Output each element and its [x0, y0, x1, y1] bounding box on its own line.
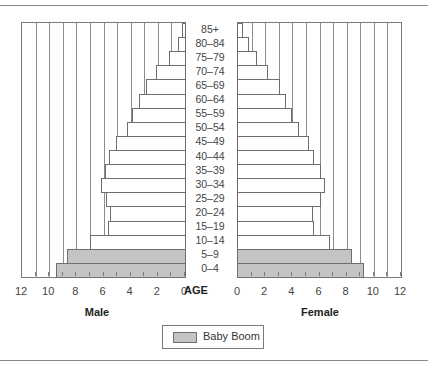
- tick: [170, 272, 171, 276]
- age-label: 75–79: [185, 51, 235, 63]
- female-bar-15–19: [237, 221, 314, 236]
- male-bar-25–29: [106, 192, 186, 207]
- gridline: [360, 23, 361, 277]
- tick: [62, 272, 63, 276]
- tick: [130, 272, 131, 276]
- male-tick-label: 8: [65, 285, 85, 297]
- male-bar-60–64: [139, 94, 186, 109]
- female-tick-label: 0: [227, 285, 247, 297]
- age-label: 45–49: [185, 135, 235, 147]
- gridline: [49, 23, 50, 277]
- age-label: 25–29: [185, 192, 235, 204]
- tick: [373, 272, 374, 276]
- male-bar-35–39: [105, 164, 186, 179]
- female-bar-70–74: [237, 65, 268, 80]
- female-bar-55–59: [237, 108, 292, 123]
- male-bar-5–9: [67, 249, 186, 264]
- gridline: [63, 23, 64, 277]
- legend: Baby Boom: [162, 325, 264, 349]
- male-bar-30–34: [101, 178, 186, 193]
- age-axis-title: AGE: [176, 284, 216, 296]
- female-bar-45–49: [237, 136, 309, 151]
- male-bar-15–19: [108, 221, 186, 236]
- tick: [332, 272, 333, 276]
- age-label: 55–59: [185, 107, 235, 119]
- tick: [103, 272, 104, 276]
- tick: [21, 272, 22, 276]
- female-bar-60–64: [237, 94, 286, 109]
- tick: [346, 272, 347, 276]
- female-tick-label: 4: [281, 285, 301, 297]
- tick: [157, 272, 158, 276]
- age-label: 60–64: [185, 93, 235, 105]
- bottom-rule: [0, 360, 428, 361]
- male-bar-20–24: [110, 206, 186, 221]
- female-bar-30–34: [237, 178, 325, 193]
- female-plot-area: [237, 22, 402, 278]
- female-tick-label: 8: [336, 285, 356, 297]
- tick: [116, 272, 117, 276]
- male-bar-50–54: [127, 122, 186, 137]
- top-rule: [0, 5, 428, 6]
- male-tick-label: 4: [120, 285, 140, 297]
- female-bar-75–79: [237, 51, 257, 66]
- female-bar-40–44: [237, 150, 314, 165]
- male-bar-70–74: [156, 65, 186, 80]
- gridline: [347, 23, 348, 277]
- tick: [305, 272, 306, 276]
- male-bar-40–44: [109, 150, 186, 165]
- legend-label: Baby Boom: [203, 330, 260, 342]
- age-label: 85+: [185, 23, 235, 35]
- male-tick-label: 12: [11, 285, 31, 297]
- age-label: 5–9: [185, 248, 235, 260]
- age-label: 70–74: [185, 65, 235, 77]
- tick: [386, 272, 387, 276]
- tick: [48, 272, 49, 276]
- tick: [143, 272, 144, 276]
- female-axis-title: Female: [280, 306, 360, 318]
- female-bar-25–29: [237, 192, 321, 207]
- tick: [291, 272, 292, 276]
- female-bar-35–39: [237, 164, 321, 179]
- male-bar-10–14: [90, 235, 186, 250]
- male-bar-55–59: [132, 108, 186, 123]
- male-bar-45–49: [116, 136, 186, 151]
- tick: [35, 272, 36, 276]
- tick: [251, 272, 252, 276]
- age-label: 15–19: [185, 220, 235, 232]
- tick: [278, 272, 279, 276]
- female-bar-10–14: [237, 235, 330, 250]
- gridline: [387, 23, 388, 277]
- tick: [264, 272, 265, 276]
- male-bar-75–79: [169, 51, 186, 66]
- male-axis-title: Male: [57, 306, 137, 318]
- male-tick-label: 2: [147, 285, 167, 297]
- male-plot-area: [21, 22, 186, 278]
- tick: [89, 272, 90, 276]
- male-tick-label: 10: [38, 285, 58, 297]
- legend-swatch-baby-boom: [173, 332, 197, 343]
- age-label: 50–54: [185, 121, 235, 133]
- female-bar-5–9: [237, 249, 352, 264]
- age-label: 40–44: [185, 150, 235, 162]
- tick: [237, 272, 238, 276]
- gridline: [36, 23, 37, 277]
- age-label: 20–24: [185, 206, 235, 218]
- female-bar-85+: [237, 23, 243, 38]
- age-label: 10–14: [185, 234, 235, 246]
- age-label: 65–69: [185, 79, 235, 91]
- age-label: 0–4: [185, 262, 235, 274]
- female-bar-80–84: [237, 37, 249, 52]
- female-tick-label: 6: [309, 285, 329, 297]
- female-bar-65–69: [237, 79, 280, 94]
- tick: [319, 272, 320, 276]
- female-tick-label: 10: [363, 285, 383, 297]
- gridline: [333, 23, 334, 277]
- male-bar-65–69: [146, 79, 186, 94]
- age-label: 35–39: [185, 164, 235, 176]
- gridline: [76, 23, 77, 277]
- age-label: 30–34: [185, 178, 235, 190]
- gridline: [374, 23, 375, 277]
- female-tick-label: 2: [254, 285, 274, 297]
- age-label: 80–84: [185, 37, 235, 49]
